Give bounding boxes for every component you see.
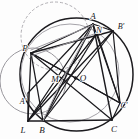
label-P: P — [21, 43, 28, 53]
side-BC — [43, 120, 112, 121]
label-A: A — [89, 11, 96, 21]
segment-A-B-through-M — [28, 33, 97, 121]
geometry-figure: ABCA'B'C'PLMNO — [0, 0, 138, 139]
label-L: L — [19, 125, 25, 135]
circles-layer — [0, 2, 133, 131]
label-Cprime: C' — [120, 101, 127, 110]
label-O: O — [80, 73, 87, 83]
label-M: M — [50, 74, 59, 84]
label-Aprime: A' — [19, 97, 27, 106]
geometry-canvas: ABCA'B'C'PLMNO — [0, 0, 138, 139]
points-layer — [74, 76, 77, 79]
label-N: N — [95, 25, 103, 35]
point-O-dot — [74, 76, 77, 79]
label-Bprime: B' — [118, 22, 125, 31]
inner-auxiliary-circle — [21, 24, 119, 122]
label-C: C — [111, 124, 118, 134]
label-B: B — [39, 125, 45, 135]
